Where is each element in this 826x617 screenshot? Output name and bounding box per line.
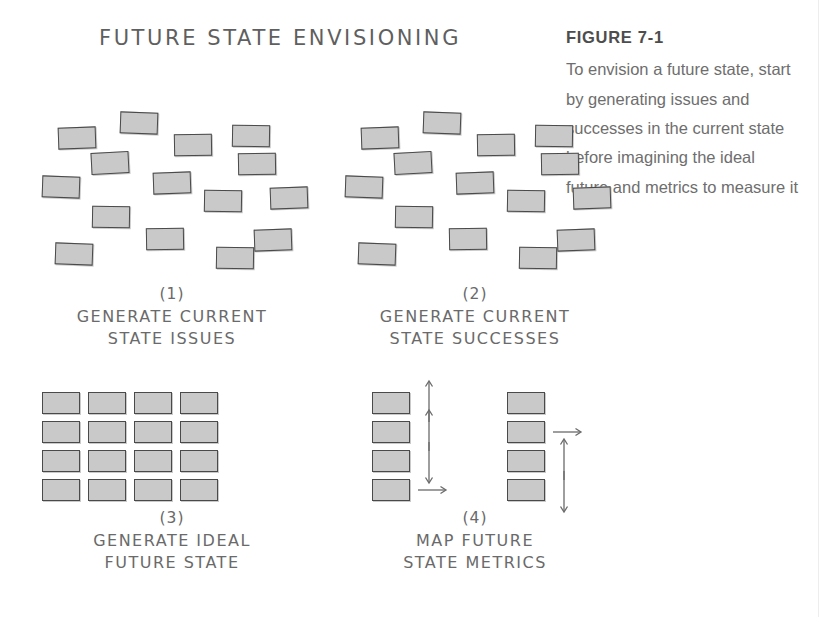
- sticky-note: [134, 450, 172, 472]
- sticky-note: [345, 175, 384, 198]
- metric-row: [372, 479, 451, 501]
- metric-row: [372, 392, 451, 414]
- sticky-note: [372, 479, 410, 501]
- sticky-note: [134, 479, 172, 501]
- panel-1-note-cluster: [42, 112, 302, 272]
- panel-4-label-line-1: MAP FUTURE: [315, 530, 635, 552]
- panel-4-metric-columns: [372, 392, 586, 501]
- sticky-note: [423, 111, 462, 134]
- panel-2-step-number: (2): [315, 284, 635, 305]
- sticky-note: [134, 421, 172, 443]
- panel-3-label-line-2: FUTURE STATE: [12, 552, 332, 574]
- diagram-title: FUTURE STATE ENVISIONING: [0, 26, 560, 50]
- sticky-note: [174, 134, 212, 157]
- sticky-note: [88, 479, 126, 501]
- sticky-note: [393, 151, 432, 175]
- metric-row: [507, 421, 586, 443]
- sticky-note: [42, 175, 81, 198]
- sticky-note: [477, 134, 515, 157]
- panel-2-label-line-2: STATE SUCCESSES: [315, 328, 635, 350]
- panel-2-label-line-1: GENERATE CURRENT: [315, 306, 635, 328]
- sticky-note: [573, 186, 612, 209]
- sticky-note: [519, 247, 557, 270]
- sticky-note: [395, 206, 433, 229]
- sticky-note: [449, 228, 487, 251]
- sticky-note: [358, 242, 397, 265]
- sticky-note: [372, 450, 410, 472]
- sticky-note: [58, 126, 97, 149]
- sticky-note: [204, 190, 242, 213]
- panel-1-label-line-2: STATE ISSUES: [12, 328, 332, 350]
- panel-4-label-line-2: STATE METRICS: [315, 552, 635, 574]
- figure-number: FIGURE 7-1: [566, 28, 814, 46]
- metric-row: [507, 450, 586, 472]
- panel-4-label: (4) MAP FUTURE STATE METRICS: [315, 508, 635, 574]
- sticky-note: [146, 228, 184, 251]
- sticky-note: [90, 151, 129, 175]
- sticky-note: [372, 392, 410, 414]
- sticky-note: [541, 153, 579, 176]
- sticky-note: [372, 421, 410, 443]
- sticky-note: [535, 125, 573, 148]
- sticky-note: [456, 171, 495, 194]
- page-right-rule: [818, 0, 819, 617]
- sticky-note: [557, 228, 596, 251]
- right-metric-column: [507, 392, 586, 501]
- arrow-down-icon: [552, 479, 586, 501]
- metric-row: [507, 392, 586, 414]
- sticky-note: [238, 153, 276, 176]
- sticky-note: [507, 392, 545, 414]
- arrow-slot-empty: [552, 392, 586, 414]
- panel-1-label-line-1: GENERATE CURRENT: [12, 306, 332, 328]
- sticky-note: [42, 421, 80, 443]
- panel-4-step-number: (4): [315, 508, 635, 529]
- metric-row: [372, 450, 451, 472]
- sticky-note: [507, 421, 545, 443]
- panel-3-step-number: (3): [12, 508, 332, 529]
- sticky-note: [134, 392, 172, 414]
- sticky-note: [55, 242, 94, 265]
- panel-1-label: (1) GENERATE CURRENT STATE ISSUES: [12, 284, 332, 350]
- sticky-note: [254, 228, 293, 251]
- panel-3-label: (3) GENERATE IDEAL FUTURE STATE: [12, 508, 332, 574]
- panel-1-step-number: (1): [12, 284, 332, 305]
- sticky-note: [180, 392, 218, 414]
- sticky-note: [507, 190, 545, 213]
- sticky-note: [42, 392, 80, 414]
- sticky-note: [180, 421, 218, 443]
- arrow-down-icon: [417, 450, 451, 472]
- sticky-note: [88, 421, 126, 443]
- sticky-note: [92, 206, 130, 229]
- sticky-note: [120, 111, 159, 134]
- sticky-note: [42, 479, 80, 501]
- metric-row: [507, 479, 586, 501]
- sticky-note: [42, 450, 80, 472]
- sticky-note: [153, 171, 192, 194]
- sticky-note: [88, 392, 126, 414]
- sticky-note: [507, 479, 545, 501]
- sticky-note: [361, 126, 400, 149]
- sticky-note: [270, 186, 309, 209]
- sticky-note: [88, 450, 126, 472]
- sticky-note: [232, 125, 270, 148]
- left-metric-column: [372, 392, 451, 501]
- panel-generate-current-state-issues: (1) GENERATE CURRENT STATE ISSUES: [42, 112, 302, 272]
- panel-2-label: (2) GENERATE CURRENT STATE SUCCESSES: [315, 284, 635, 350]
- figure-page: FUTURE STATE ENVISIONING FIGURE 7-1 To e…: [0, 0, 826, 617]
- panel-2-note-cluster: [345, 112, 605, 272]
- sticky-note: [507, 450, 545, 472]
- panel-3-label-line-1: GENERATE IDEAL: [12, 530, 332, 552]
- metric-row: [372, 421, 451, 443]
- arrow-right-icon: [417, 479, 451, 501]
- panel-generate-current-state-successes: (2) GENERATE CURRENT STATE SUCCESSES: [345, 112, 605, 272]
- panel-3-note-grid: [42, 392, 218, 501]
- sticky-note: [180, 479, 218, 501]
- sticky-note: [216, 247, 254, 270]
- sticky-note: [180, 450, 218, 472]
